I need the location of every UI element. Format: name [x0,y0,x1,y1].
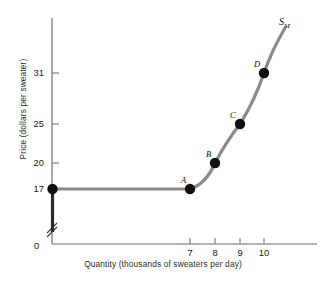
data-point-marker-a [185,184,195,194]
data-point-label-d: D [254,59,260,69]
data-point-marker-origin [47,184,57,194]
y-tick-label-25: 25 [20,118,44,129]
chart-plot-area [0,0,326,285]
supply-curve-chart: Price (dollars per sweater) Quantity (th… [0,0,326,285]
data-point-marker-d [259,68,269,78]
origin-label: 0 [34,240,39,251]
supply-curve-rising-segment [190,28,285,189]
y-tick-label-17: 17 [20,183,44,194]
supply-curve-label-subscript: M [284,22,290,30]
x-tick-label-9: 9 [230,247,250,258]
y-tick-label-20: 20 [20,157,44,168]
x-tick-label-10: 10 [254,247,274,258]
data-point-marker-b [210,158,220,168]
data-point-marker-c [235,119,245,129]
data-point-label-a: A [181,175,186,185]
y-tick-label-31: 31 [20,67,44,78]
data-point-label-b: B [206,149,211,159]
x-tick-label-8: 8 [205,247,225,258]
x-tick-marks [190,238,264,244]
data-point-label-c: C [230,110,236,120]
y-tick-marks [52,73,59,163]
x-axis-title: Quantity (thousands of sweaters per day) [0,259,326,269]
y-axis-title: Price (dollars per sweater) [18,43,28,175]
x-tick-label-7: 7 [180,247,200,258]
supply-curve-label: SM [279,16,290,30]
